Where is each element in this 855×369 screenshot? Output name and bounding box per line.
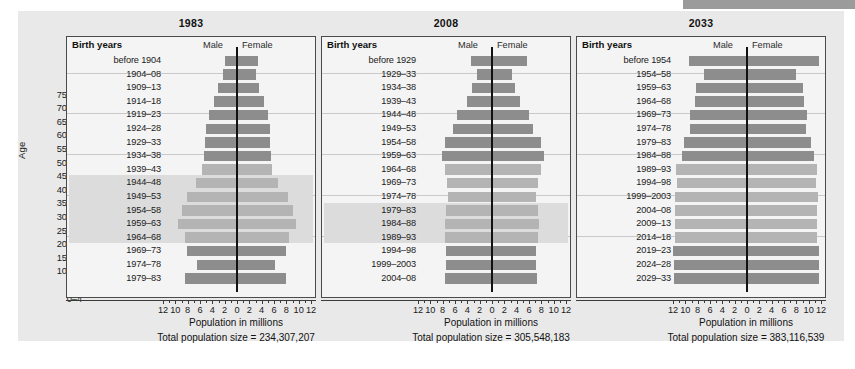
male-bar — [445, 219, 492, 230]
x-axis-tick — [299, 300, 300, 304]
female-bar — [237, 96, 264, 107]
x-axis-minor-tick — [729, 300, 730, 303]
x-axis-tick — [541, 300, 542, 304]
birth-year-label: 2014–18 — [577, 232, 671, 242]
birth-year-label: 1944–48 — [67, 177, 161, 187]
female-bar — [747, 205, 817, 216]
x-axis-tick — [735, 300, 736, 304]
pyramid-row: 1989–93 — [322, 231, 570, 244]
female-bar — [747, 96, 804, 107]
pyramid-row: 1959–63 — [322, 149, 570, 162]
pyramid-row: 1924–28 — [67, 122, 315, 135]
birth-year-label: 1924–28 — [67, 123, 161, 133]
female-bar — [237, 192, 288, 203]
male-bar — [223, 69, 237, 80]
x-axis-minor-tick — [256, 300, 257, 303]
pyramid-row: before 1954 — [577, 54, 825, 67]
pyramid-row: before 1904 — [67, 54, 315, 67]
x-axis-minor-tick — [424, 300, 425, 303]
male-bar — [453, 124, 492, 135]
male-bar — [477, 69, 492, 80]
birth-year-label: 1989–93 — [322, 232, 416, 242]
female-bar — [492, 205, 538, 216]
male-bar — [690, 124, 747, 135]
pyramid-row: 1954–58 — [577, 68, 825, 81]
x-axis-tick — [237, 300, 238, 304]
male-bar — [674, 273, 747, 284]
female-bar — [747, 151, 814, 162]
pyramid-row: 1974–78 — [577, 122, 825, 135]
male-bar — [696, 83, 747, 94]
female-bar — [747, 69, 796, 80]
pyramid-row: 1939–43 — [322, 95, 570, 108]
male-bar — [205, 137, 237, 148]
x-axis-minor-tick — [753, 300, 754, 303]
male-bar — [673, 246, 747, 257]
population-pyramid-2033: 2033before 19541954–581959–631964–681969… — [576, 11, 826, 341]
birth-year-label: 1964–68 — [322, 164, 416, 174]
female-bar — [492, 137, 541, 148]
female-legend-label: Female — [497, 40, 528, 50]
female-bar — [492, 246, 536, 257]
birth-years-header: Birth years — [582, 39, 632, 50]
male-bar — [218, 83, 237, 94]
pyramid-row: 1999–2003 — [577, 190, 825, 203]
x-axis-minor-tick — [231, 300, 232, 303]
female-bar — [492, 232, 538, 243]
pyramid-row: 2004–08 — [322, 272, 570, 285]
pyramid-row: 1969–73 — [67, 244, 315, 257]
female-bar — [747, 124, 806, 135]
birth-year-label: 1919–23 — [67, 109, 161, 119]
female-bar — [492, 83, 515, 94]
pyramid-row: 1979–83 — [322, 204, 570, 217]
male-bar — [684, 137, 747, 148]
x-axis-minor-tick — [486, 300, 487, 303]
birth-year-label: 1974–78 — [577, 123, 671, 133]
birth-year-label: 1939–43 — [67, 164, 161, 174]
pyramid-row: 2014–18 — [577, 231, 825, 244]
pyramid-plot-area: before 19041904–081909–131914–181919–231… — [66, 36, 316, 298]
pyramid-row: 1949–53 — [322, 122, 570, 135]
pyramid-row: 1974–78 — [322, 190, 570, 203]
pyramid-row: 1984–88 — [322, 217, 570, 230]
pyramid-row: 1994–98 — [322, 244, 570, 257]
x-axis-tick — [455, 300, 456, 304]
x-axis-minor-tick — [778, 300, 779, 303]
x-axis-minor-tick — [766, 300, 767, 303]
x-axis-minor-tick — [523, 300, 524, 303]
pyramid-row: 1944–48 — [67, 176, 315, 189]
birth-year-label: 1979–83 — [67, 273, 161, 283]
x-axis-tick — [262, 300, 263, 304]
age-axis-title: Age — [16, 141, 27, 159]
x-axis-minor-tick — [741, 300, 742, 303]
male-bar — [675, 205, 747, 216]
male-bar — [442, 151, 492, 162]
birth-year-label: 1959–63 — [577, 82, 671, 92]
x-axis-tick — [685, 300, 686, 304]
birth-year-label: 1934–38 — [322, 82, 416, 92]
birth-year-label: 1979–83 — [322, 205, 416, 215]
male-bar — [445, 232, 492, 243]
birth-year-label: 1999–2003 — [322, 259, 416, 269]
female-bar — [237, 219, 296, 230]
male-bar — [675, 219, 747, 230]
x-axis-tick — [784, 300, 785, 304]
birth-year-label: 1904–08 — [67, 69, 161, 79]
female-bar — [237, 83, 259, 94]
x-axis-tick — [722, 300, 723, 304]
pyramid-row: 1909–13 — [67, 81, 315, 94]
pyramid-column-headers: Birth yearsMaleFemale — [66, 39, 316, 54]
male-bar — [206, 124, 237, 135]
pyramid-row: 1979–83 — [67, 272, 315, 285]
pyramid-plot-area: before 19291929–331934–381939–431944–481… — [321, 36, 571, 298]
male-bar — [675, 192, 747, 203]
x-axis-line — [66, 300, 316, 301]
pyramid-row: 1984–88 — [577, 149, 825, 162]
x-axis-tick — [772, 300, 773, 304]
female-bar — [747, 83, 803, 94]
male-legend-label: Male — [713, 40, 733, 50]
birth-year-label: 1934–38 — [67, 150, 161, 160]
pyramid-column-headers: Birth yearsMaleFemale — [321, 39, 571, 54]
x-axis-minor-tick — [548, 300, 549, 303]
x-axis-minor-tick — [437, 300, 438, 303]
